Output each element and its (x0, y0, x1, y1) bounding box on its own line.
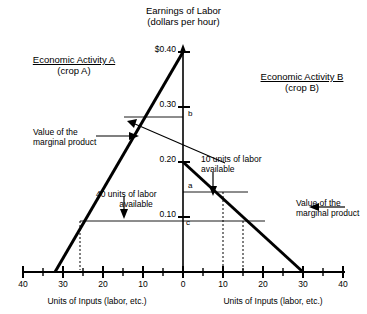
y-tick-040: $0.40 (137, 45, 176, 55)
vmp-diagram (0, 0, 367, 314)
x-tick-left-10: 10 (131, 280, 155, 290)
vmp-curve-right (183, 162, 303, 272)
y-tick-020: 0.20 (137, 155, 176, 165)
point-label-b: b (188, 110, 192, 119)
economic-activity-b-sub: (crop B) (242, 83, 362, 94)
labor-left-line2: available (96, 200, 176, 210)
chart-title: Earnings of Labor (dollars per hour) (117, 6, 250, 27)
x-tick-right-20: 20 (251, 280, 275, 290)
economic-activity-b-label: Economic Activity B (crop B) (242, 72, 362, 93)
chart-title-line2: (dollars per hour) (117, 17, 250, 28)
labor-right-annotation: 10 units of labor available (201, 155, 281, 174)
labor-right-line2: available (201, 165, 281, 175)
labor-left-annotation: 40 units of labor available (96, 190, 176, 209)
vmp-right-annotation: Value of the marginal product (296, 199, 366, 218)
vmp-left-line2: marginal product (33, 138, 99, 148)
economic-activity-a-sub: (crop A) (14, 66, 134, 77)
x-tick-left-30: 30 (51, 280, 75, 290)
x-tick-zero: 0 (171, 280, 195, 290)
x-axis-caption-right: Units of Inputs (labor, etc.) (208, 297, 338, 307)
x-tick-left-20: 20 (91, 280, 115, 290)
vmp-right-line2: marginal product (296, 209, 366, 219)
x-tick-right-10: 10 (211, 280, 235, 290)
x-axis-caption-left: Units of Inputs (labor, etc.) (32, 297, 162, 307)
x-tick-left-40: 40 (11, 280, 35, 290)
vmp-left-annotation: Value of the marginal product (33, 128, 99, 147)
point-label-a: a (188, 182, 192, 191)
economic-activity-a-label: Economic Activity A (crop A) (14, 55, 134, 76)
x-tick-right-30: 30 (291, 280, 315, 290)
y-axis-arrowhead (180, 44, 186, 52)
point-label-c: c (186, 219, 190, 228)
y-tick-010: 0.10 (137, 210, 176, 220)
y-tick-030: 0.30 (137, 100, 176, 110)
x-tick-right-40: 40 (331, 280, 355, 290)
